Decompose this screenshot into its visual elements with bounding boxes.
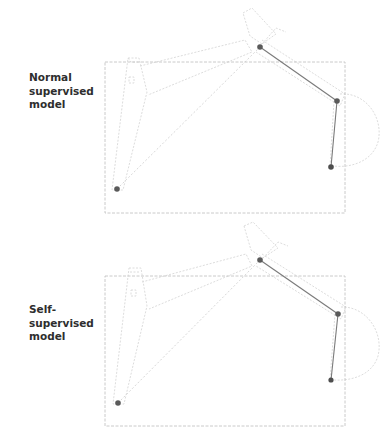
- bounding-box: [105, 276, 345, 426]
- arm-outline: [112, 8, 379, 190]
- keypoint-joint-right: [334, 98, 340, 104]
- keypoint-tip: [328, 164, 334, 170]
- bounding-box: [105, 62, 345, 213]
- keypoint-tip: [328, 377, 333, 382]
- keypoint-joint-top: [257, 44, 263, 50]
- keypoint-base: [114, 186, 120, 192]
- pose-figure: [0, 0, 391, 448]
- guide-line: [117, 49, 258, 189]
- panel-self-supervised: [105, 222, 379, 426]
- panel-normal-supervised: [105, 8, 379, 213]
- guide-line: [118, 262, 258, 403]
- keypoint-joint-top: [257, 257, 263, 263]
- bone-top-right: [260, 260, 338, 314]
- keypoint-base: [115, 400, 121, 406]
- keypoint-joint-right: [335, 311, 341, 317]
- bone-top-right: [260, 47, 337, 101]
